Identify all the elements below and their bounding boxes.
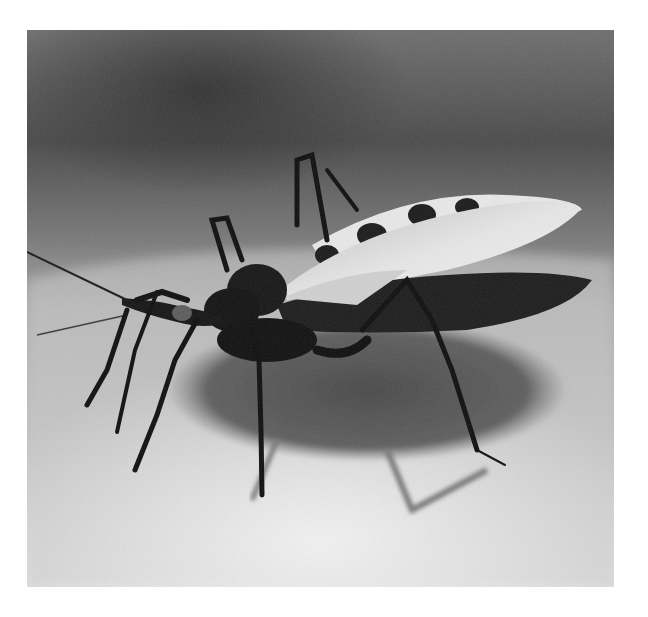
insect-photo: Close-up black and white photo of a kiss… — [27, 30, 614, 587]
photo-rendering — [27, 30, 614, 587]
